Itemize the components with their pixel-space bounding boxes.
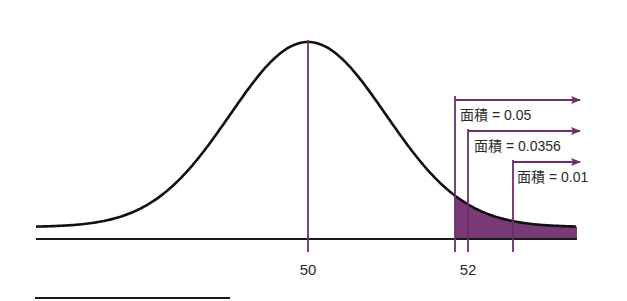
area-label-0-01: 面積 = 0.01 <box>517 169 588 185</box>
x-tick-label-52: 52 <box>460 261 477 278</box>
normal-curve <box>36 42 576 227</box>
normal-distribution-chart: 面積 = 0.05 面積 = 0.0356 面積 = 0.01 50 52 <box>0 0 627 301</box>
shaded-tail-area <box>455 196 577 239</box>
area-label-0-05: 面積 = 0.05 <box>460 107 531 123</box>
x-tick-label-50: 50 <box>300 261 317 278</box>
area-label-0-0356: 面積 = 0.0356 <box>474 138 561 154</box>
